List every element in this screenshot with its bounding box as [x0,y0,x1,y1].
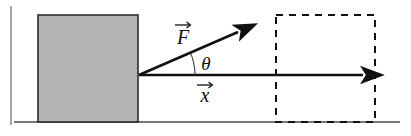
physics-diagram-figure: F x θ [0,0,411,136]
dashed-final-position-box [276,15,375,122]
gray-block [38,15,138,122]
displacement-vector-label: x [200,84,210,106]
angle-theta-label: θ [201,53,210,74]
diagram-canvas: F x θ [0,0,411,136]
force-vector-label-group: F [175,22,190,48]
displacement-vector-label-group: x [197,82,212,106]
force-vector-label: F [176,26,190,48]
angle-theta-arc [190,52,195,75]
